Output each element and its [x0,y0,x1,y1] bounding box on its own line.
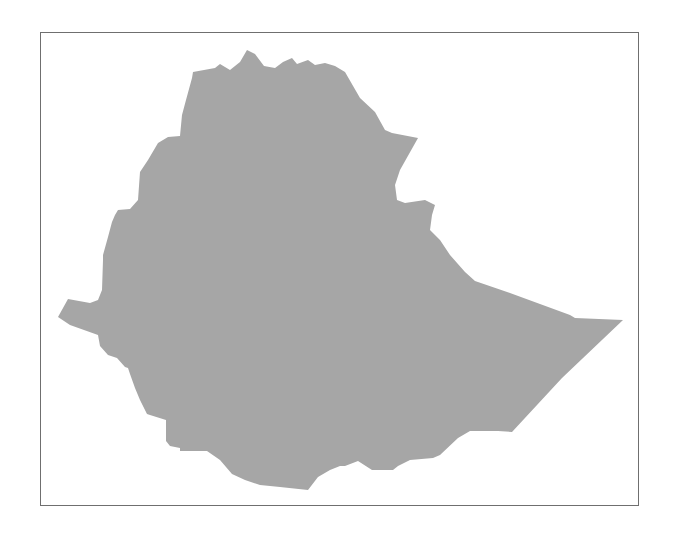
country-shape-ethiopia [58,50,623,490]
map-canvas [0,0,677,534]
